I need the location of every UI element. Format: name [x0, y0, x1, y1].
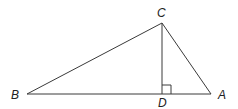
label-b: B: [11, 88, 19, 102]
label-d: D: [158, 96, 167, 109]
triangle-diagram: C B A D: [0, 0, 238, 109]
segment-bc: [27, 23, 162, 94]
label-c: C: [157, 6, 166, 20]
label-a: A: [217, 88, 226, 102]
right-angle-marker-icon: [162, 85, 171, 94]
segment-ca: [162, 23, 211, 94]
